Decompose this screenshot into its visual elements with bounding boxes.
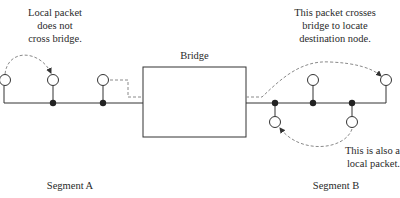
tap-a3 [100, 100, 106, 106]
node-b4 [381, 75, 392, 86]
left-packet-annotation: Local packet does not cross bridge. [0, 6, 110, 45]
tap-a2 [50, 100, 56, 106]
left-packet-line-2: does not [0, 19, 110, 32]
node-b1 [270, 117, 281, 128]
tap-b3 [349, 100, 355, 106]
right-packet-line-3: destination node. [270, 32, 400, 45]
segment-b-label: Segment B [296, 179, 376, 192]
tap-b2 [310, 100, 316, 106]
bottom-packet-line-1: This is also a [330, 144, 400, 157]
right-packet-line-1: This packet crosses [270, 6, 400, 19]
segment-b-nodes [270, 75, 392, 128]
right-packet-annotation: This packet crosses bridge to locate des… [270, 6, 400, 45]
local-packet-a-path [5, 55, 51, 74]
bottom-packet-annotation: This is also a local packet. [330, 144, 400, 170]
node-a3 [98, 75, 109, 86]
bridge-label: Bridge [143, 49, 246, 62]
segment-b-bus [246, 86, 386, 116]
right-packet-line-2: bridge to locate [270, 19, 400, 32]
tap-b1 [272, 100, 278, 106]
bottom-packet-line-2: local packet. [330, 157, 400, 170]
left-packet-line-3: cross bridge. [0, 32, 110, 45]
segment-a-bus [4, 86, 143, 103]
node-b3 [347, 117, 358, 128]
bridge-entry-path [110, 80, 143, 97]
node-a1 [0, 75, 11, 86]
node-a2 [48, 75, 59, 86]
segment-a-nodes [0, 75, 109, 107]
node-b2 [308, 75, 319, 86]
left-packet-line-1: Local packet [0, 6, 110, 19]
segment-a-label: Segment A [30, 179, 110, 192]
bridge-box [143, 67, 246, 137]
